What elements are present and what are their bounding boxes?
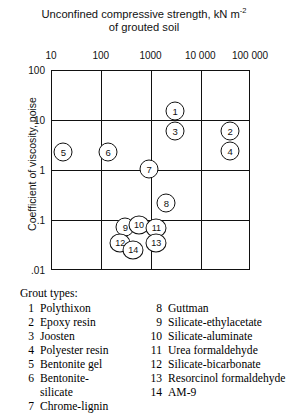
legend-item: 2Epoxy resin [14, 316, 142, 330]
legend-item: 11Urea formaldehyde [142, 344, 288, 358]
legend-item-number: 4 [14, 344, 40, 358]
data-point-13: 13 [146, 234, 167, 253]
legend-item-label: Guttman [168, 302, 209, 316]
data-point-1: 1 [166, 101, 185, 120]
legend-item: 12Silicate-bicarbonate [142, 358, 288, 372]
legend-item-label: Chrome-lignin [40, 400, 108, 414]
legend-item: 14AM-9 [142, 386, 288, 400]
legend-item-number: 11 [142, 344, 168, 358]
y-axis-tick-label: .1 [3, 215, 45, 226]
legend-column-right: 8Guttman9Silicate-ethylacetate10Silicate… [142, 302, 288, 401]
legend-item-number: 8 [142, 302, 168, 316]
legend-item: 1Polythixon [14, 302, 142, 316]
legend-item: 4Polyester resin [14, 344, 142, 358]
legend-item-number: 13 [142, 372, 168, 386]
x-axis-tick-label: 100 [92, 50, 109, 61]
legend-item-label: Bentonite- [40, 372, 89, 386]
legend-item-label: Bentonite gel [40, 358, 102, 372]
data-point-5: 5 [54, 142, 73, 161]
legend-item-number: 9 [142, 316, 168, 330]
legend-item-label: Silicate-aluminate [168, 330, 252, 344]
legend-item-number: 6 [14, 372, 40, 386]
x-axis-tick-label: 10 [45, 50, 56, 61]
y-axis-tick-label: .01 [3, 265, 45, 276]
legend-item-number: 10 [142, 330, 168, 344]
x-axis-tick-label: 1000 [139, 50, 161, 61]
legend-heading: Grout types: [20, 287, 288, 301]
legend-item-label: Epoxy resin [40, 316, 96, 330]
x-axis-tick-label: 100 000 [232, 50, 268, 61]
data-point-7: 7 [140, 159, 159, 178]
legend-item-label: Silicate-ethylacetate [168, 316, 262, 330]
data-point-6: 6 [99, 142, 118, 161]
legend-column-left: 1Polythixon2Epoxy resin3Joosten4Polyeste… [14, 302, 142, 414]
legend-item-label: silicate [40, 386, 73, 400]
legend-item-label: Polyester resin [40, 344, 109, 358]
legend-item: 3Joosten [14, 330, 142, 344]
data-point-2: 2 [221, 122, 240, 141]
legend-item-number: 14 [142, 386, 168, 400]
legend-item-number: 7 [14, 400, 40, 414]
chart-title: Unconfined compressive strength, kN m-2 … [0, 4, 288, 35]
legend-item: 6Bentonite- [14, 372, 142, 386]
legend-item-label: AM-9 [168, 386, 196, 400]
gridline-horizontal [52, 120, 249, 121]
y-axis-tick-label: 100 [3, 65, 45, 76]
legend-item-label: Resorcinol formaldehyde [168, 372, 286, 386]
legend-item-number: 5 [14, 358, 40, 372]
legend-item: 10Silicate-aluminate [142, 330, 288, 344]
legend-item-label: Polythixon [40, 302, 91, 316]
legend: Grout types: 1Polythixon2Epoxy resin3Joo… [14, 287, 288, 302]
legend-item-number: 3 [14, 330, 40, 344]
y-axis-tick-label: 10 [3, 115, 45, 126]
legend-item: 0silicate [14, 386, 142, 400]
data-point-14: 14 [123, 241, 144, 260]
legend-item-number: 12 [142, 358, 168, 372]
data-point-3: 3 [166, 122, 185, 141]
legend-item-number: 2 [14, 316, 40, 330]
x-axis-tick-label: 10 000 [185, 50, 216, 61]
legend-item-label: Joosten [40, 330, 75, 344]
legend-item: 5Bentonite gel [14, 358, 142, 372]
legend-item: 13Resorcinol formaldehyde [142, 372, 288, 386]
chart-title-exponent: -2 [240, 6, 247, 15]
plot-area: 1234567891011121314 [51, 70, 250, 270]
legend-item: 9Silicate-ethylacetate [142, 316, 288, 330]
legend-item-label: Silicate-bicarbonate [168, 358, 261, 372]
chart-title-line1: Unconfined compressive strength, kN m [41, 8, 239, 20]
data-point-8: 8 [157, 193, 176, 212]
data-point-4: 4 [221, 142, 240, 161]
legend-item: 7Chrome-lignin [14, 400, 142, 414]
y-axis-tick-label: 1 [3, 165, 45, 176]
chart-title-line2: of grouted soil [109, 21, 179, 33]
legend-item-number: 1 [14, 302, 40, 316]
legend-item: 8Guttman [142, 302, 288, 316]
legend-item-label: Urea formaldehyde [168, 344, 258, 358]
